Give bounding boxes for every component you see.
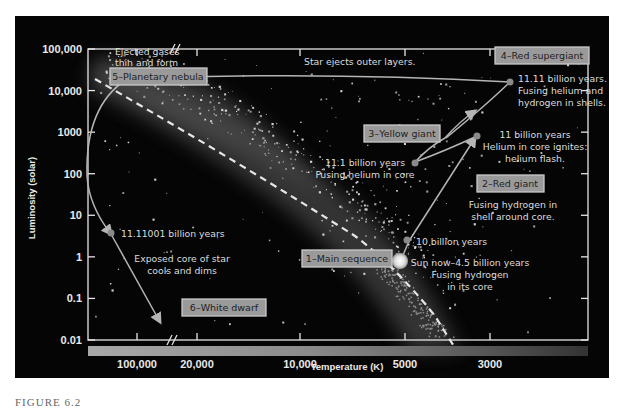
star-point (529, 171, 531, 173)
star-point (439, 98, 441, 100)
star-point (441, 120, 442, 121)
star-point (482, 226, 483, 227)
star-point (268, 153, 269, 154)
star-point (374, 195, 375, 196)
star-point (129, 171, 130, 172)
star-point (435, 336, 437, 338)
star-point (527, 331, 529, 333)
star-point (304, 323, 306, 325)
star-point (490, 78, 491, 79)
star-point (336, 117, 337, 118)
star-point (417, 313, 419, 315)
star-point (268, 131, 270, 133)
star-point (265, 153, 266, 154)
star-point (443, 293, 445, 295)
star-point (104, 140, 106, 142)
star-point (382, 271, 384, 273)
star-point (251, 105, 252, 106)
star-point (285, 168, 287, 170)
star-point (388, 275, 390, 277)
star-point (358, 193, 360, 195)
star-point (295, 159, 297, 161)
star-point (210, 278, 211, 279)
star-point (394, 282, 396, 284)
star-point (419, 325, 421, 327)
star-point (402, 279, 404, 281)
star-point (408, 253, 409, 254)
note-supergiant-1: 11.11 billion years. (518, 73, 607, 84)
star-point (439, 336, 441, 338)
star-point (374, 80, 375, 81)
star-point (274, 143, 276, 145)
star-point (221, 109, 223, 111)
star-point (418, 313, 420, 315)
star-point (228, 132, 229, 133)
star-point (262, 130, 264, 132)
star-point (293, 131, 295, 133)
star-point (232, 91, 233, 92)
star-point (388, 238, 389, 239)
star-point (395, 92, 397, 94)
star-point (343, 241, 345, 243)
star-point (423, 277, 424, 278)
star-point (351, 217, 353, 219)
star-point (398, 94, 399, 95)
star-point (380, 231, 381, 232)
star-point (231, 134, 232, 135)
star-point (306, 172, 307, 173)
star-point (214, 320, 215, 321)
star-point (409, 293, 411, 295)
star-point (193, 96, 194, 97)
star-point (256, 65, 257, 66)
star-point (310, 155, 311, 156)
star-point (210, 95, 212, 97)
star-point (349, 201, 351, 203)
star-point (469, 167, 471, 169)
star-point (162, 91, 164, 93)
star-point (155, 87, 156, 88)
star-point (266, 155, 267, 156)
x-tick-label: 3000 (478, 358, 502, 370)
star-point (200, 99, 202, 101)
star-point (385, 268, 387, 270)
sun-marker (392, 253, 408, 269)
star-point (402, 296, 404, 298)
star-point (254, 128, 256, 130)
star-point (577, 127, 578, 128)
star-point (405, 276, 406, 277)
star-point (392, 217, 393, 218)
star-point (422, 309, 424, 311)
star-point (246, 114, 247, 115)
star-point (276, 123, 277, 124)
star-point (426, 313, 428, 315)
star-point (295, 154, 297, 156)
star-point (223, 110, 224, 111)
star-point (190, 109, 191, 110)
star-point (281, 150, 283, 152)
note-ejected-gases-1: Ejected gases (115, 46, 180, 57)
hr-diagram-frame: 100,00010,00010001001010.10.01 100,00020… (15, 16, 609, 378)
star-point (389, 281, 391, 283)
star-point (340, 90, 342, 92)
main-sequence-haze (90, 66, 460, 351)
star-point (250, 111, 252, 113)
star-point (404, 143, 406, 145)
star-point (413, 293, 415, 295)
star-point (408, 293, 410, 295)
star-point (214, 109, 216, 111)
star-point (256, 123, 258, 125)
star-point (118, 269, 119, 270)
star-point (346, 191, 348, 193)
star-point (452, 161, 454, 163)
star-point (306, 71, 307, 72)
star-point (357, 202, 358, 203)
star-point (385, 207, 387, 209)
star-point (454, 304, 456, 306)
star-point (549, 297, 551, 299)
star-point (282, 322, 284, 324)
star-point (358, 96, 359, 97)
star-point (264, 140, 266, 142)
star-point (332, 225, 334, 227)
star-point (397, 296, 399, 298)
star-point (395, 214, 396, 215)
